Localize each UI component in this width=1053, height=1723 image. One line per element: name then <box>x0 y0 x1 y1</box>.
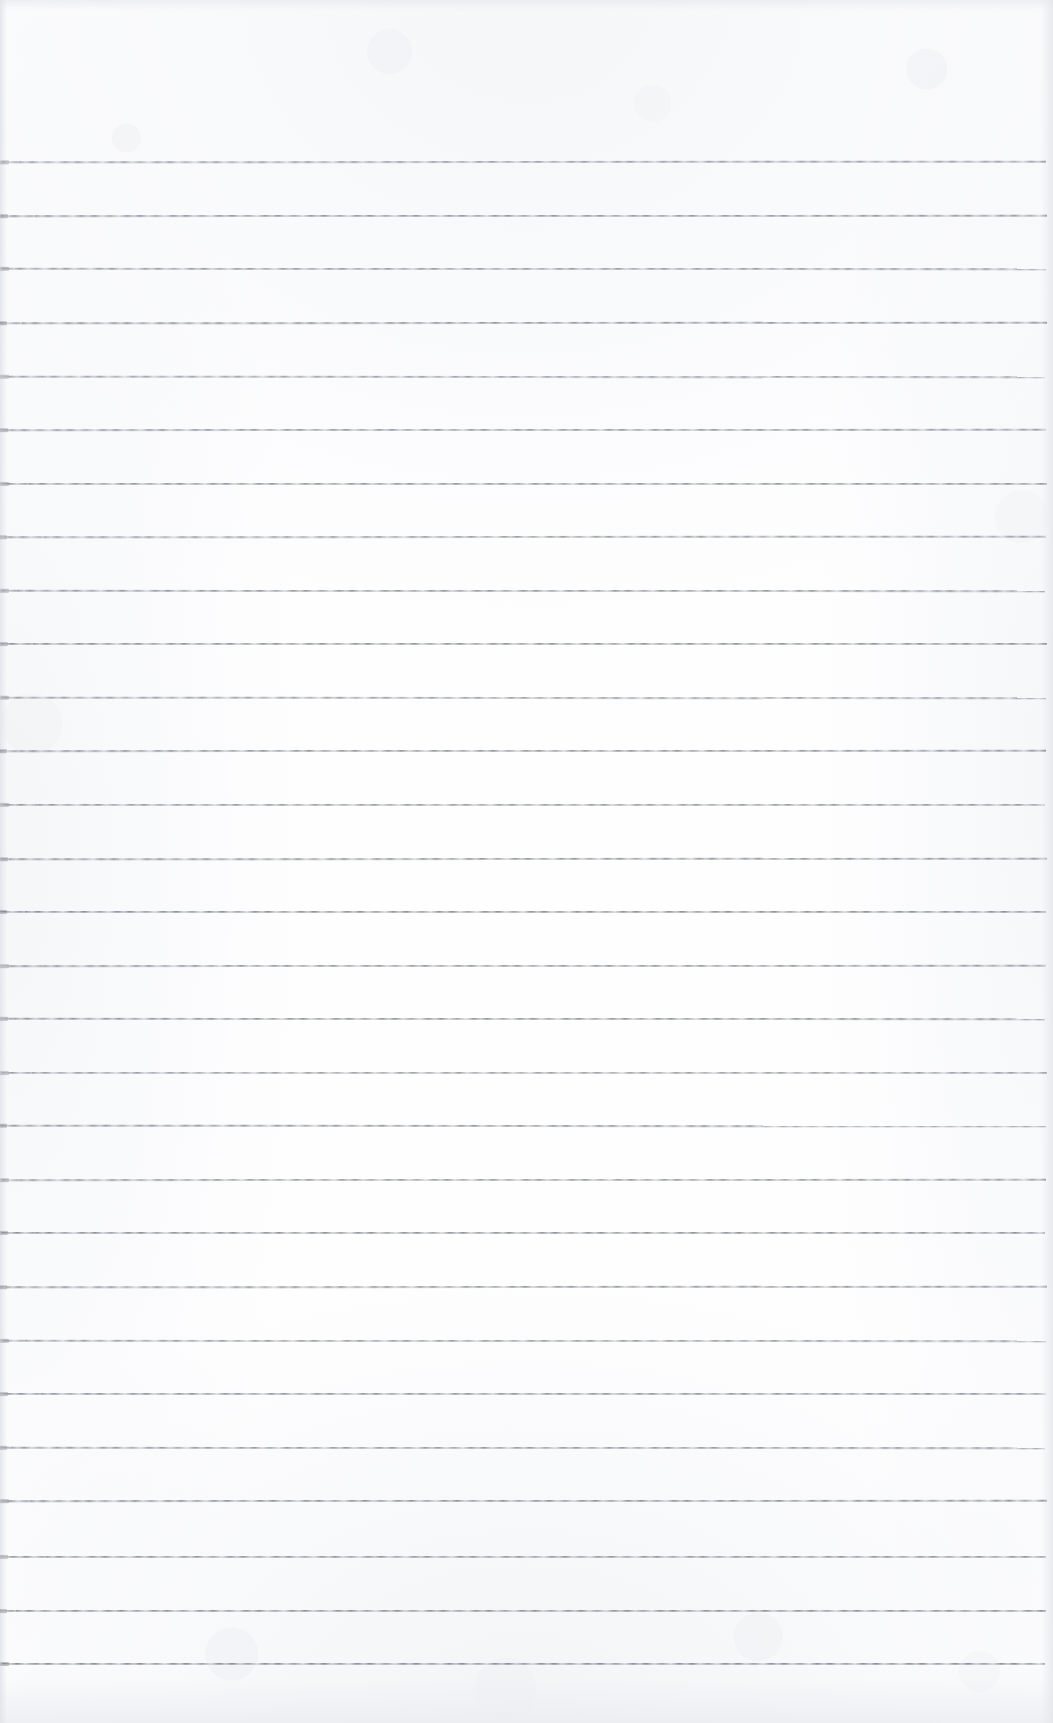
scanned-page: Blank lined notebook page <box>0 0 1053 1723</box>
paper-background <box>0 0 1053 1723</box>
